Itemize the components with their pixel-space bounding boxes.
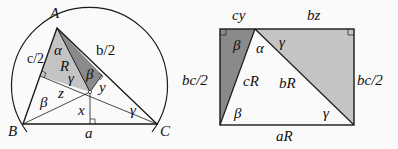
half-c-label: c/2 [27,51,44,66]
beta-bottom-label: β [233,105,242,121]
beta-top-label: β [85,66,94,82]
alpha-label: α [54,42,63,58]
beta-left-label: β [39,94,48,110]
cr-label: cR [243,73,259,89]
bz-label: bz [307,7,321,23]
x-label: x [77,102,85,118]
geometry-diagram: A B C c/2 b/2 a R α γ β β γ x y z cy bz … [0,0,398,149]
vertex-c-label: C [160,123,171,139]
br-label: bR [279,75,296,91]
side-a-label: a [85,125,93,141]
vertex-a-label: A [49,5,60,21]
left-figure: A B C c/2 b/2 a R α γ β β γ x y z [8,5,171,141]
gamma-bottom-label: γ [323,105,330,121]
vertex-b-label: B [8,123,17,139]
alpha-right-label: α [256,40,265,56]
ar-label: aR [276,128,293,144]
right-figure: cy bz bc/2 bc/2 aR cR bR β α γ β γ [182,7,383,144]
beta-top-right-label: β [232,37,241,53]
y-label: y [97,79,106,95]
z-label: z [57,85,64,101]
right-side-label: bc/2 [357,72,383,88]
half-b-label: b/2 [96,42,115,58]
cy-label: cy [232,7,246,23]
left-side-label: bc/2 [182,72,208,88]
